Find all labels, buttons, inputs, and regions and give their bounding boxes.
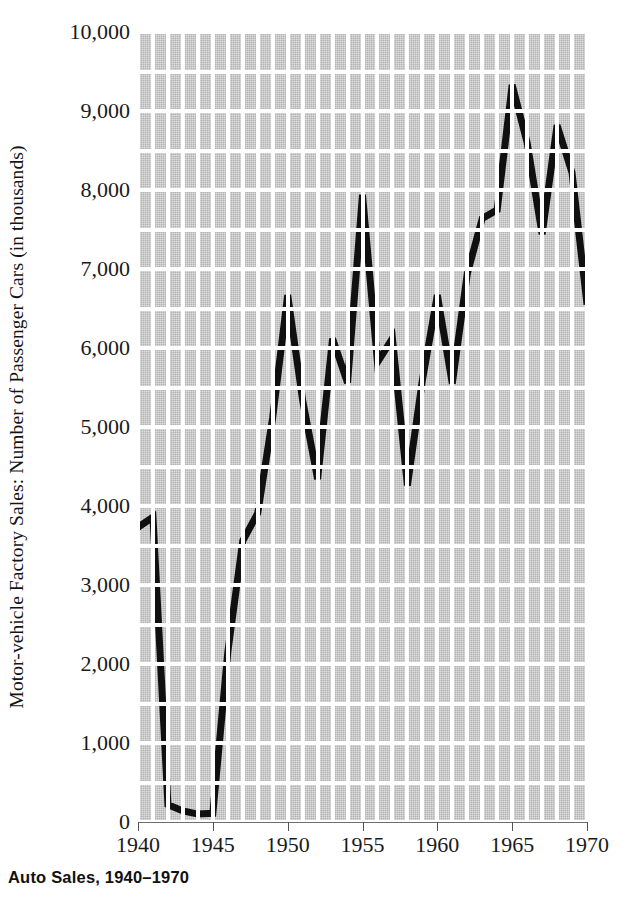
chart-figure: Motor-vehicle Factory Sales: Number of P…: [0, 0, 626, 905]
y-axis-tick-labels: 01,0002,0003,0004,0005,0006,0007,0008,00…: [30, 0, 130, 905]
vertical-gridline: [495, 32, 499, 822]
vertical-gridline: [510, 32, 514, 822]
vertical-gridline: [465, 32, 469, 822]
vertical-gridline: [570, 32, 574, 822]
y-axis-tick-label: 1,000: [34, 732, 130, 754]
x-axis-tick-mark: [512, 822, 513, 831]
x-axis-tick-mark: [213, 822, 214, 831]
y-axis-title-container: Motor-vehicle Factory Sales: Number of P…: [0, 32, 34, 822]
x-axis-tick-mark: [363, 822, 364, 831]
vertical-gridline: [316, 32, 320, 822]
vertical-gridline: [525, 32, 529, 822]
x-axis-tick-label: 1970: [565, 834, 609, 856]
vertical-gridline: [420, 32, 424, 822]
vertical-gridline: [585, 32, 587, 822]
vertical-gridline: [211, 32, 215, 822]
y-axis-tick-label: 9,000: [34, 100, 130, 122]
y-axis-tick-label: 6,000: [34, 337, 130, 359]
vertical-gridline: [405, 32, 409, 822]
plot-area: [138, 32, 587, 822]
x-axis-tick-mark: [138, 822, 139, 831]
vertical-gridline: [286, 32, 290, 822]
y-axis-tick-label: 3,000: [34, 574, 130, 596]
vertical-gridline: [151, 32, 155, 822]
y-axis-tick-label: 10,000: [34, 21, 130, 43]
vertical-gridline: [138, 32, 140, 822]
x-axis-tick-mark: [437, 822, 438, 831]
y-axis-tick-label: 4,000: [34, 495, 130, 517]
vertical-gridline: [301, 32, 305, 822]
vertical-gridline: [435, 32, 439, 822]
x-axis-tick-label: 1960: [415, 834, 459, 856]
vertical-gridline: [241, 32, 245, 822]
y-axis-tick-label: 2,000: [34, 653, 130, 675]
vertical-gridline: [196, 32, 200, 822]
vertical-gridline: [331, 32, 335, 822]
vertical-gridline: [390, 32, 394, 822]
y-axis-tick-label: 0: [34, 811, 130, 833]
vertical-gridline: [346, 32, 350, 822]
x-axis-tick-label: 1965: [490, 834, 534, 856]
x-axis-tick-label: 1950: [266, 834, 310, 856]
x-axis-tick-mark: [288, 822, 289, 831]
vertical-gridline: [226, 32, 230, 822]
vertical-gridline: [555, 32, 559, 822]
x-axis-tick-label: 1940: [116, 834, 160, 856]
figure-caption: Auto Sales, 1940–1970: [8, 868, 189, 887]
x-axis-tick-label: 1955: [341, 834, 385, 856]
vertical-gridline: [540, 32, 544, 822]
vertical-gridline: [361, 32, 365, 822]
x-axis-tick-mark: [587, 822, 588, 831]
vertical-gridline: [375, 32, 379, 822]
vertical-gridline: [480, 32, 484, 822]
vertical-gridline: [181, 32, 185, 822]
y-axis-tick-label: 7,000: [34, 258, 130, 280]
vertical-gridline: [450, 32, 454, 822]
x-axis-tick-label: 1945: [191, 834, 235, 856]
y-axis-title: Motor-vehicle Factory Sales: Number of P…: [6, 145, 28, 708]
vertical-gridline: [271, 32, 275, 822]
vertical-gridline: [166, 32, 170, 822]
vertical-gridline: [256, 32, 260, 822]
y-axis-tick-label: 8,000: [34, 179, 130, 201]
y-axis-tick-label: 5,000: [34, 416, 130, 438]
